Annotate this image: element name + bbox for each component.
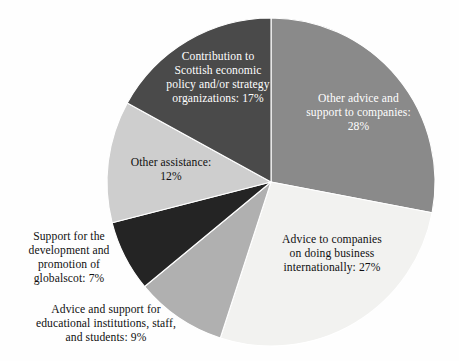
slice-label-advice-to-companies-on-doing-business-internationally: Advice to companies on doing business in… xyxy=(256,233,408,275)
slice-label-other-advice-and-support-to-companies: Other advice and support to companies: 2… xyxy=(286,92,431,134)
pie-chart: Other advice and support to companies: 2… xyxy=(0,0,459,361)
slice-label-support-for-development-and-promotion-of-globalscot: Support for the development and promotio… xyxy=(8,230,130,286)
slice-label-other-assistance: Other assistance: 12% xyxy=(110,156,232,184)
slice-label-advice-and-support-for-educational-institutions: Advice and support for educational insti… xyxy=(8,303,204,345)
slice-label-contribution-to-scottish-economic-policy: Contribution to Scottish economic policy… xyxy=(148,50,288,106)
